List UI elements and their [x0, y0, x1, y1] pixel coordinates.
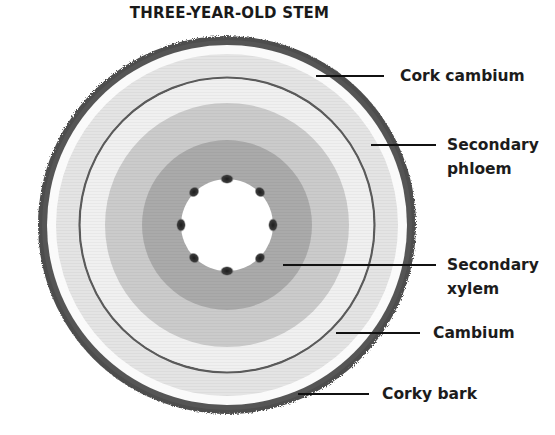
- label-cork-cambium: Cork cambium: [400, 64, 525, 88]
- label-secondary-xylem-line1: Secondary: [447, 253, 539, 277]
- vascular-bundle: [220, 174, 234, 184]
- vascular-bundle: [268, 218, 278, 232]
- label-secondary-phloem: Secondary phloem: [447, 133, 539, 181]
- label-secondary-phloem-line2: phloem: [447, 157, 539, 181]
- label-secondary-phloem-line1: Secondary: [447, 133, 539, 157]
- label-cambium: Cambium: [433, 321, 515, 345]
- label-secondary-xylem-line2: xylem: [447, 277, 539, 301]
- stem-cross-section-diagram: THREE-YEAR-OLD STEM: [0, 0, 555, 435]
- vascular-bundle: [176, 218, 186, 232]
- vascular-bundle: [220, 266, 234, 276]
- label-secondary-xylem: Secondary xylem: [447, 253, 539, 301]
- label-corky-bark: Corky bark: [382, 382, 477, 406]
